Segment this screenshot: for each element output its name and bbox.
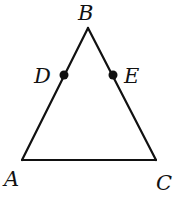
point-e-dot (109, 71, 118, 80)
triangle-diagram: A B C D E (0, 0, 179, 201)
vertex-label-c: C (156, 171, 172, 195)
diagram-svg: A B C D E (0, 0, 179, 201)
segment-bc (88, 28, 156, 160)
vertex-label-a: A (2, 167, 19, 191)
segment-ab (22, 28, 88, 160)
point-label-e: E (123, 64, 139, 88)
point-d-dot (60, 71, 69, 80)
vertex-label-b: B (77, 1, 93, 25)
point-label-d: D (33, 64, 51, 88)
